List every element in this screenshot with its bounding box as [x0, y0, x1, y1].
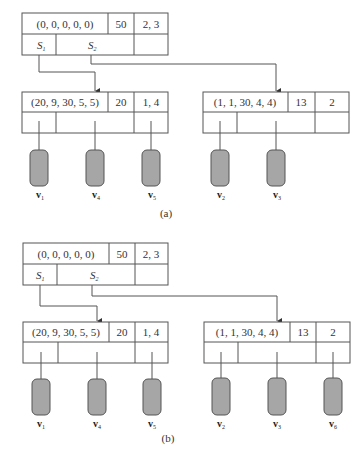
child-ids: 2 — [329, 96, 335, 108]
svg-text:v5: v5 — [148, 418, 156, 430]
edge-s2 — [91, 55, 276, 91]
tree-diagram: (0, 0, 0, 0, 0) 50 2, 3 S1 S2 (20, 9, 30… — [0, 0, 359, 454]
root-ids: 2, 3 — [143, 18, 160, 30]
svg-text:v3: v3 — [273, 418, 281, 430]
child-node-left: (20, 9, 30, 5, 5) 20 1, 4 — [23, 322, 168, 363]
edge-s1 — [40, 285, 97, 321]
vector-v3: v3 — [268, 352, 286, 430]
svg-text:v4: v4 — [93, 418, 101, 430]
vector-v6: v6 — [324, 352, 342, 430]
root-count: 50 — [116, 18, 128, 30]
caption-b: (b) — [162, 432, 175, 445]
svg-text:v2: v2 — [217, 189, 225, 201]
svg-text:v6: v6 — [329, 418, 337, 430]
vector-v1: v1 — [32, 352, 50, 430]
svg-text:v4: v4 — [92, 189, 100, 201]
panel-b: (0, 0, 0, 0, 0) 50 2, 3 S1 S2 (20, 9, 30… — [23, 243, 350, 445]
child-key: (20, 9, 30, 5, 5) — [32, 326, 100, 339]
child-count: 13 — [298, 326, 310, 338]
child-ids: 2 — [330, 326, 336, 338]
edge-s1 — [39, 55, 95, 91]
svg-text:v2: v2 — [217, 418, 225, 430]
svg-text:v5: v5 — [148, 189, 156, 201]
child-ids: 1, 4 — [143, 96, 160, 108]
vector-v4: v4 — [88, 352, 106, 430]
child-key: (20, 9, 30, 5, 5) — [31, 96, 99, 109]
root-count: 50 — [117, 248, 129, 260]
svg-text:v3: v3 — [273, 189, 281, 201]
child-count: 13 — [296, 96, 308, 108]
child-key: (1, 1, 30, 4, 4) — [214, 96, 277, 109]
root-ids: 2, 3 — [143, 248, 160, 260]
caption-a: (a) — [160, 207, 173, 220]
child-count: 20 — [117, 326, 129, 338]
child-ids: 1, 4 — [143, 326, 160, 338]
child-count: 20 — [116, 96, 128, 108]
vector-v2: v2 — [212, 352, 230, 430]
root-node: (0, 0, 0, 0, 0) 50 2, 3 S1 S2 — [22, 13, 168, 55]
root-key: (0, 0, 0, 0, 0) — [38, 248, 95, 261]
svg-text:v1: v1 — [36, 189, 44, 201]
child-key: (1, 1, 30, 4, 4) — [216, 326, 279, 339]
svg-text:v1: v1 — [37, 418, 45, 430]
panel-a: (0, 0, 0, 0, 0) 50 2, 3 S1 S2 (20, 9, 30… — [22, 13, 349, 220]
vector-v5: v5 — [143, 352, 161, 430]
edge-s2 — [92, 285, 277, 321]
root-key: (0, 0, 0, 0, 0) — [37, 18, 94, 31]
root-node: (0, 0, 0, 0, 0) 50 2, 3 S1 S2 — [23, 243, 168, 285]
